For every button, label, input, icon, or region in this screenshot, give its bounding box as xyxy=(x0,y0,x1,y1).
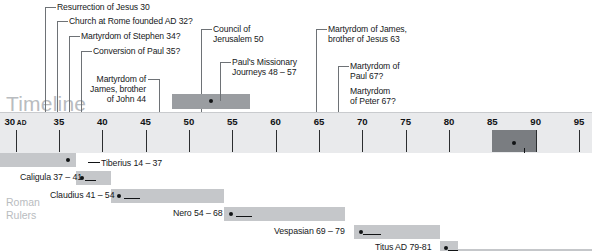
leader-stub-james-jesus xyxy=(316,29,327,30)
leader-line-church-rome xyxy=(57,21,58,112)
axis-tick-mark-40 xyxy=(102,130,103,152)
ruler-bar-vespasian xyxy=(354,225,441,239)
axis-tick-mark-65 xyxy=(319,130,320,152)
ruler-connector-caligula xyxy=(85,180,96,181)
axis-tick-mark-35 xyxy=(59,130,60,152)
event-label-stephen: Martyrdom of Stephen 34? xyxy=(81,31,180,41)
leader-line-martyrdom-paul xyxy=(338,66,339,112)
event-label-martyrdom-peter: Martyrdomof Peter 67? xyxy=(350,86,396,106)
leader-stub-conversion-paul xyxy=(81,51,92,52)
ruler-connector-nero xyxy=(236,216,252,217)
ruler-bar-claudius xyxy=(111,189,224,203)
highlight-dot-first-john xyxy=(512,141,516,145)
ruler-label-vespasian: Vespasian 69 – 79 xyxy=(274,226,345,236)
axis-tick-mark-75 xyxy=(406,130,407,152)
axis-tick-label-80: 80 xyxy=(444,116,455,127)
event-label-resurrection: Resurrection of Jesus 30 xyxy=(57,2,150,12)
leader-stub-stephen xyxy=(69,36,80,37)
ruler-connector-vespasian xyxy=(363,234,381,235)
axis-tick-label-65: 65 xyxy=(314,116,325,127)
ruler-connector-tiberius xyxy=(88,162,100,163)
leader-stub-resurrection xyxy=(45,7,56,8)
event-label-church-rome: Church at Rome founded AD 32? xyxy=(69,16,193,26)
ruler-dot-claudius xyxy=(117,194,121,198)
axis-tick-label-35: 35 xyxy=(54,116,65,127)
leader-line-stephen xyxy=(69,36,70,112)
leader-line-paul-journeys xyxy=(220,62,221,101)
axis-tick-label-70: 70 xyxy=(357,116,368,127)
event-label-conversion-paul: Conversion of Paul 35? xyxy=(93,46,180,56)
event-label-james-jesus: Martyrdom of James,brother of Jesus 63 xyxy=(328,24,407,44)
ruler-connector-claudius xyxy=(124,198,140,199)
axis-tick-label-30: 30 AD xyxy=(4,116,26,127)
ruler-label-titus: Titus AD 79-81 xyxy=(375,242,431,251)
axis-tick-label-40: 40 xyxy=(97,116,108,127)
ruler-label-claudius: Claudius 41 – 54 xyxy=(50,190,114,200)
ruler-label-tiberius: Tiberius 14 – 37 xyxy=(101,158,162,168)
axis-tick-mark-70 xyxy=(362,130,363,152)
leader-line-james-john xyxy=(159,79,160,112)
leader-line-resurrection xyxy=(45,7,46,112)
event-label-council-jerusalem: Council ofJerusalem 50 xyxy=(213,24,263,44)
roman-rulers-section xyxy=(0,153,592,251)
event-label-paul-journeys: Paul's MissionaryJourneys 48 – 57 xyxy=(232,57,297,77)
axis-tick-label-55: 55 xyxy=(227,116,238,127)
axis-tick-mark-45 xyxy=(146,130,147,152)
axis-tick-mark-90 xyxy=(536,130,537,152)
event-label-james-john: Martyrdom ofJames, brotherof John 44 xyxy=(76,74,146,105)
leader-stub-paul-journeys xyxy=(220,62,231,63)
axis-tick-mark-60 xyxy=(276,130,277,152)
axis-tick-label-60: 60 xyxy=(270,116,281,127)
axis-tick-label-90: 90 xyxy=(530,116,541,127)
axis-tick-label-45: 45 xyxy=(140,116,151,127)
leader-stub-council-jerusalem xyxy=(201,29,212,30)
axis-tick-mark-80 xyxy=(449,130,450,152)
leader-stub-martyrdom-paul xyxy=(338,66,349,67)
ruler-bar-tiberius xyxy=(0,153,76,167)
axis-tick-mark-50 xyxy=(189,130,190,152)
axis-tick-label-75: 75 xyxy=(400,116,411,127)
axis-tick-mark-95 xyxy=(579,130,580,152)
axis-tick-label-50: 50 xyxy=(184,116,195,127)
axis-tick-label-85: 85 xyxy=(487,116,498,127)
event-label-martyrdom-paul: Martyrdom ofPaul 67? xyxy=(350,61,399,81)
axis-tick-mark-55 xyxy=(232,130,233,152)
event-dot-paul-journeys xyxy=(209,99,213,103)
axis-tick-mark-30 xyxy=(16,130,17,152)
ruler-label-caligula: Caligula 37 – 41 xyxy=(20,172,82,182)
axis-ad-suffix: AD xyxy=(15,119,27,126)
ruler-label-nero: Nero 54 – 68 xyxy=(173,208,223,218)
axis-tick-label-95: 95 xyxy=(574,116,585,127)
ruler-bar-nero xyxy=(224,207,345,221)
timeline-infographic: Timeline Resurrection of Jesus 30Church … xyxy=(0,0,592,251)
roman-rulers-watermark-label: RomanRulers xyxy=(6,196,40,221)
leader-stub-church-rome xyxy=(57,21,68,22)
leader-line-james-jesus xyxy=(316,29,317,112)
leader-stub-james-john xyxy=(148,79,159,80)
